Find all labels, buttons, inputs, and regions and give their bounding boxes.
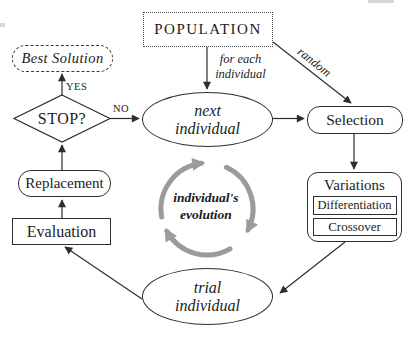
replacement-label: Replacement <box>25 175 103 192</box>
flowchart-diagram: POPULATION Best Solution STOP? next indi… <box>0 0 414 338</box>
next-individual-line2: individual <box>175 120 240 138</box>
next-individual-line1: next <box>194 102 221 120</box>
trial-individual-line1: trial <box>194 279 222 297</box>
population-label: POPULATION <box>154 21 262 38</box>
for-each-line1: for each <box>203 52 278 67</box>
evaluation-box: Evaluation <box>12 218 111 245</box>
crossover-box: Crossover <box>313 218 397 236</box>
best-solution-box: Best Solution <box>12 45 113 72</box>
arrow-variations-to-trial-individual <box>280 242 345 293</box>
population-box: POPULATION <box>143 12 273 47</box>
for-each-individual-label: for each individual <box>203 52 278 82</box>
for-each-line2: individual <box>203 67 278 82</box>
selection-label: Selection <box>326 111 384 129</box>
trial-individual-line2: individual <box>175 297 240 315</box>
scan-artifact <box>368 0 394 3</box>
best-solution-label: Best Solution <box>21 50 103 67</box>
differentiation-box: Differentiation <box>313 196 397 215</box>
scan-artifact <box>0 23 5 27</box>
differentiation-label: Differentiation <box>317 198 391 213</box>
arrow-trial-individual-to-evaluation <box>65 247 142 299</box>
crossover-label: Crossover <box>328 219 381 235</box>
no-label: NO <box>113 103 129 114</box>
evaluation-label: Evaluation <box>27 223 96 241</box>
evolution-line1: individual's <box>156 190 256 207</box>
variations-title: Variations <box>308 175 401 196</box>
next-individual-ellipse: next individual <box>142 92 273 147</box>
trial-individual-ellipse: trial individual <box>142 268 273 325</box>
cycle-arc-bottom <box>167 231 230 255</box>
selection-box: Selection <box>307 106 403 134</box>
yes-label: YES <box>66 81 87 92</box>
evolution-line2: evolution <box>156 207 256 224</box>
individuals-evolution-label: individual's evolution <box>156 190 256 224</box>
replacement-box: Replacement <box>18 170 111 197</box>
stop-label: STOP? <box>14 95 110 142</box>
variations-box: Variations Differentiation Crossover <box>307 172 402 242</box>
